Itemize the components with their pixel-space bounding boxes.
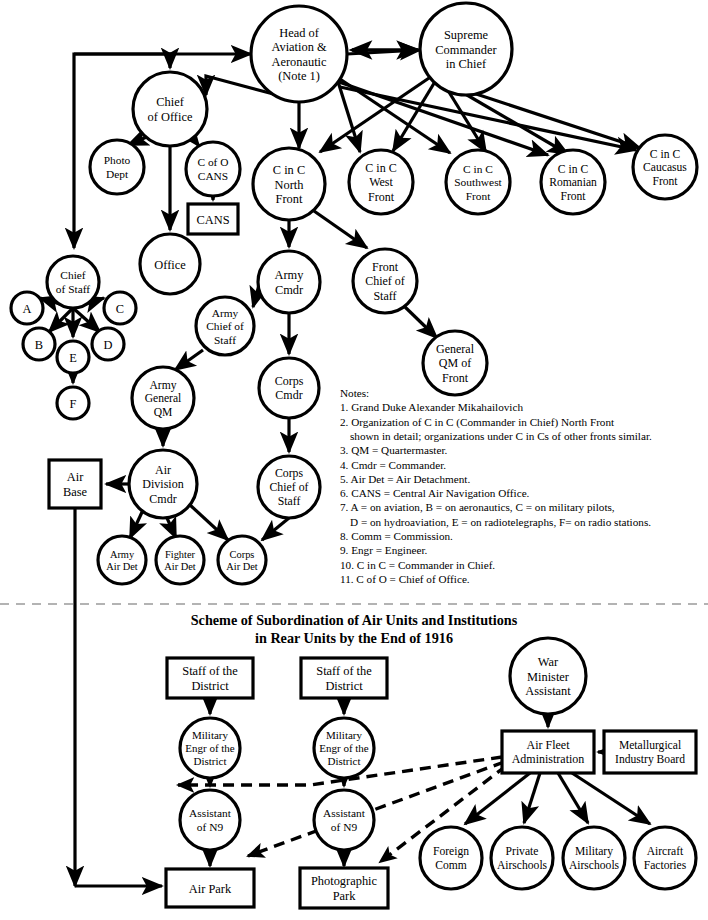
node-label: Minister (527, 670, 570, 684)
node-air_div[interactable]: AirDivisionCmdr (129, 450, 197, 518)
node-n_c[interactable]: C (104, 292, 136, 324)
node-head_av[interactable]: Head ofAviation &Aeronautic(Note 1) (251, 6, 347, 102)
node-label: Military (192, 729, 229, 741)
connector-arrow (190, 505, 228, 540)
node-label: Base (63, 485, 88, 499)
node-army_ad[interactable]: ArmyAir Det (98, 536, 146, 584)
node-army_cmdr[interactable]: ArmyCmdr (258, 251, 320, 313)
diagram-page: Head ofAviation &Aeronautic(Note 1)Supre… (0, 0, 708, 920)
node-label: C in C (463, 163, 493, 175)
node-cinc_ro[interactable]: C in CRomanianFront (541, 150, 605, 214)
connector-arrow (74, 54, 170, 68)
node-label: Army (212, 307, 239, 319)
node-corps_cos[interactable]: CorpsChief ofStaff (258, 456, 320, 518)
node-label: Front (368, 190, 395, 204)
node-label: Airschools (569, 859, 620, 872)
node-supreme[interactable]: SupremeCommanderin Chief (420, 3, 512, 95)
node-gen_qm_f[interactable]: GeneralQM ofFront (423, 331, 487, 395)
connector-arrow (73, 308, 100, 332)
node-staff2[interactable]: Staff of theDistrict (301, 658, 387, 698)
node-asst1[interactable]: Assistantof N9 (180, 790, 240, 850)
node-meng1[interactable]: MilitaryEngr of theDistrict (180, 718, 240, 778)
node-label: Park (333, 889, 357, 903)
node-fight_ad[interactable]: FighterAir Det (156, 536, 204, 584)
node-label: C of O (197, 156, 228, 168)
node-privair[interactable]: PrivateAirschools (491, 827, 553, 889)
node-office[interactable]: Office (140, 234, 200, 294)
node-cinc_ca[interactable]: C in CCaucasusFront (633, 135, 697, 199)
node-label: Staff (214, 334, 236, 346)
node-staff1[interactable]: Staff of theDistrict (167, 658, 253, 698)
node-label: Airschools (497, 859, 548, 872)
node-cinc_w[interactable]: C in CWestFront (349, 150, 413, 214)
note-item: 1. Grand Duke Alexander Mikahailovich (340, 401, 523, 413)
node-aircraft[interactable]: AircraftFactories (634, 827, 696, 889)
node-label: Division (142, 477, 183, 491)
node-army_cos[interactable]: ArmyChief ofStaff (196, 297, 254, 355)
node-label: District (191, 679, 229, 693)
connector-arrow (49, 308, 73, 332)
node-milair[interactable]: MilitaryAirschools (563, 827, 625, 889)
node-chief_st[interactable]: Chiefof Staff (47, 256, 99, 308)
node-n_f[interactable]: F (57, 387, 89, 419)
node-photopark[interactable]: PhotographicPark (300, 868, 388, 908)
node-foreign[interactable]: ForeignComm (420, 827, 482, 889)
node-label: Caucasus (643, 161, 687, 174)
note-item: 5. Air Det = Air Detachment. (340, 473, 470, 485)
node-label: North (275, 178, 305, 192)
node-label: C in C (273, 163, 305, 177)
node-airfleet[interactable]: Air FleetAdministration (502, 731, 594, 773)
connector-arrow (405, 307, 437, 338)
node-label: Office (154, 258, 186, 272)
note-item: D = on hydroaviation, E = on radiotelegr… (350, 516, 651, 528)
node-army_qm[interactable]: ArmyGeneralQM (132, 367, 194, 429)
node-cofo_cans[interactable]: C of OCANS (186, 142, 240, 196)
lower-section-title: Scheme of Subordination of Air Units and… (191, 612, 518, 646)
node-label: Air (67, 470, 84, 484)
node-label: Aviation & (271, 40, 327, 54)
node-corps_ad[interactable]: CorpsAir Det (218, 536, 266, 584)
node-label: (Note 1) (278, 69, 320, 83)
node-label: E (69, 351, 77, 365)
node-label: Air Det (164, 561, 196, 572)
node-air_base[interactable]: AirBase (49, 460, 101, 508)
node-n_d[interactable]: D (92, 328, 124, 360)
node-meng2[interactable]: MilitaryEngr of theDistrict (314, 718, 374, 778)
node-chief_off[interactable]: Chiefof Office (133, 72, 207, 146)
note-item: 4. Cmdr = Commander. (340, 459, 446, 471)
node-label: Engr of the (319, 742, 369, 754)
lower-title-line1: Scheme of Subordination of Air Units and… (191, 612, 518, 628)
node-label: Front (276, 192, 303, 206)
node-asst2[interactable]: Assistantof N9 (314, 790, 374, 850)
node-label: CANS (198, 170, 228, 182)
node-metal[interactable]: MetallurgicalIndustry Board (604, 731, 696, 773)
node-label: Cmdr (275, 283, 304, 297)
node-label: Staff of the (182, 664, 238, 678)
node-label: Army (110, 549, 135, 560)
node-label: Corps (230, 549, 255, 560)
node-label: Corps (275, 374, 304, 388)
node-label: C (116, 302, 124, 316)
lower-diagram-nodes: Staff of theDistrictStaff of theDistrict… (166, 638, 696, 908)
node-label: General (436, 342, 475, 356)
notes-heading: Notes: (340, 387, 369, 399)
node-label: Staff of the (316, 664, 372, 678)
note-item: 7. A = on aviation, B = on aeronautics, … (340, 501, 615, 513)
node-label: Military (326, 729, 363, 741)
node-label: Aeronautic (271, 55, 327, 69)
node-n_a[interactable]: A (11, 292, 43, 324)
node-cans_box[interactable]: CANS (188, 204, 238, 234)
node-photo[interactable]: PhotoDept (90, 140, 144, 194)
node-cinc_sw[interactable]: C in CSouthwestFront (446, 150, 510, 214)
node-label: Photo (104, 154, 131, 166)
node-cinc_n[interactable]: C in CNorthFront (253, 148, 325, 220)
node-n_b[interactable]: B (23, 328, 55, 360)
node-front_cos[interactable]: FrontChief ofStaff (353, 249, 417, 313)
node-label: Cmdr (275, 388, 302, 402)
node-n_e[interactable]: E (57, 341, 89, 373)
node-corps_cmdr[interactable]: CorpsCmdr (259, 358, 319, 418)
node-label: Air Det (226, 561, 258, 572)
node-label: Air Det (106, 561, 138, 572)
node-warmin[interactable]: WarMinisterAssistant (510, 638, 586, 714)
node-airpark[interactable]: Air Park (166, 869, 254, 907)
